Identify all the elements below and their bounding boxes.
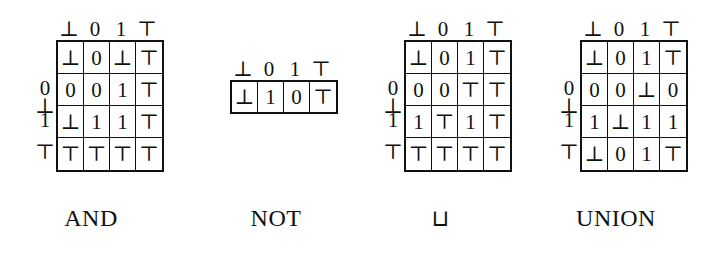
table-cell: 1 [458, 42, 484, 74]
operator-block-union: ⊥ 0 1 ⊤ ⊥ ⊥ 0 1 ⊤ 0 [536, 0, 696, 253]
table-cell: ⊥ [582, 42, 608, 74]
row-header-cell: ⊤ [34, 136, 56, 168]
table-cell: ⊤ [136, 138, 162, 170]
table-cell: 0 [582, 74, 608, 106]
row-header-cell: 1 [382, 104, 404, 136]
table-row: 0 0 ⊥ 0 [582, 74, 686, 106]
table-cell: ⊤ [136, 106, 162, 138]
operator-block-and: ⊥ 0 1 ⊤ ⊥ ⊥ 0 ⊥ ⊤ 0 [16, 0, 166, 253]
column-header-cell: 0 [430, 18, 456, 40]
column-header-cell: 0 [256, 58, 282, 80]
column-header-cell: 1 [456, 18, 482, 40]
column-header-cell: ⊥ [230, 58, 256, 80]
operator-block-join: ⊥ 0 1 ⊤ ⊥ ⊥ 0 1 ⊤ 0 [366, 0, 516, 253]
row-header-cell: 0 [558, 72, 580, 104]
row-header-cell: 0 [382, 72, 404, 104]
table-row: ⊤ ⊤ ⊤ ⊤ [58, 138, 162, 170]
row-header-cell: ⊤ [382, 136, 404, 168]
table-row: ⊥ 0 1 ⊤ [406, 42, 510, 74]
table-cell: 1 [110, 106, 136, 138]
operator-block-not: ⊥ 0 1 ⊤ ⊥ 1 0 ⊤ NOT [196, 0, 356, 253]
table-row: ⊤ ⊤ ⊤ ⊤ [406, 138, 510, 170]
row-header-column-and: 0 1 ⊤ [34, 40, 56, 168]
table-cell: 0 [608, 42, 634, 74]
row-header-cell: 1 [34, 104, 56, 136]
table-cell: ⊤ [484, 106, 510, 138]
column-header-cell: ⊤ [308, 58, 334, 80]
table-cell: ⊤ [406, 138, 432, 170]
column-header-cell: ⊤ [482, 18, 508, 40]
table-cell: 1 [258, 82, 284, 112]
column-header-cell: 1 [632, 18, 658, 40]
truth-table-grid-and: ⊥ 0 ⊥ ⊤ 0 0 1 ⊤ ⊥ 1 [56, 40, 164, 172]
table-row: 1 ⊥ 1 1 [582, 106, 686, 138]
truth-table-figure: ⊥ 0 1 ⊤ ⊥ ⊥ 0 ⊥ ⊤ 0 [0, 0, 714, 253]
truth-table-grid-union: ⊥ 0 1 ⊤ 0 0 ⊥ 0 1 ⊥ [580, 40, 688, 172]
table-cell: 0 [284, 82, 310, 112]
table-cell: 0 [432, 74, 458, 106]
table-row: ⊥ 0 1 ⊤ [582, 138, 686, 170]
row-header-cell: 0 [34, 72, 56, 104]
table-cell: ⊥ [406, 42, 432, 74]
column-header-row-and: ⊥ 0 1 ⊤ [56, 14, 164, 40]
column-header-cell: ⊥ [404, 18, 430, 40]
truth-table-grid-not: ⊥ 1 0 ⊤ [230, 80, 338, 114]
table-cell: 1 [458, 106, 484, 138]
column-header-row-join: ⊥ 0 1 ⊤ [404, 14, 512, 40]
table-cell: 0 [608, 138, 634, 170]
table-cell: ⊤ [84, 138, 110, 170]
table-cell: 0 [406, 74, 432, 106]
table-cell: 1 [634, 138, 660, 170]
table-cell: ⊤ [484, 138, 510, 170]
column-header-row-not: ⊥ 0 1 ⊤ [230, 54, 338, 80]
table-cell: ⊥ [582, 138, 608, 170]
table-cell: 1 [406, 106, 432, 138]
truth-table-and: ⊥ 0 1 ⊤ ⊥ ⊥ 0 ⊥ ⊤ 0 [34, 14, 164, 172]
truth-table-not: ⊥ 0 1 ⊤ ⊥ 1 0 ⊤ [230, 54, 338, 114]
row-header-cell: 1 [558, 104, 580, 136]
table-cell: 1 [660, 106, 686, 138]
table-row: ⊥ 1 1 ⊤ [58, 106, 162, 138]
table-cell: ⊥ [110, 42, 136, 74]
table-cell: ⊤ [432, 138, 458, 170]
row-header-cell: ⊤ [558, 136, 580, 168]
table-cell: ⊥ [232, 82, 258, 112]
table-cell: 0 [58, 74, 84, 106]
table-cell: 0 [660, 74, 686, 106]
table-cell: 1 [582, 106, 608, 138]
table-cell: 1 [110, 74, 136, 106]
operator-caption-not: NOT [196, 204, 356, 232]
table-row: 1 ⊤ 1 ⊤ [406, 106, 510, 138]
table-cell: ⊥ [58, 42, 84, 74]
table-row: 0 0 1 ⊤ [58, 74, 162, 106]
table-cell: ⊤ [660, 138, 686, 170]
table-cell: ⊥ [634, 74, 660, 106]
table-cell: ⊤ [136, 42, 162, 74]
truth-table-grid-join: ⊥ 0 1 ⊤ 0 0 ⊤ ⊤ 1 ⊤ [404, 40, 512, 172]
row-header-column-union: 0 1 ⊤ [558, 40, 580, 168]
table-cell: ⊥ [608, 106, 634, 138]
column-header-cell: 0 [82, 18, 108, 40]
table-cell: 0 [84, 74, 110, 106]
column-header-cell: ⊥ [580, 18, 606, 40]
table-cell: 0 [84, 42, 110, 74]
table-cell: ⊤ [458, 74, 484, 106]
table-row: 0 0 ⊤ ⊤ [406, 74, 510, 106]
table-cell: ⊤ [484, 42, 510, 74]
table-cell: ⊤ [484, 74, 510, 106]
column-header-cell: ⊥ [56, 18, 82, 40]
column-header-cell: 1 [282, 58, 308, 80]
table-cell: 1 [634, 42, 660, 74]
table-cell: 0 [608, 74, 634, 106]
table-cell: ⊥ [58, 106, 84, 138]
truth-table-join: ⊥ 0 1 ⊤ ⊥ ⊥ 0 1 ⊤ 0 [382, 14, 512, 172]
table-row: ⊥ 0 ⊥ ⊤ [58, 42, 162, 74]
operator-caption-and: AND [16, 204, 166, 232]
table-cell: 1 [634, 106, 660, 138]
column-header-cell: ⊤ [658, 18, 684, 40]
table-cell: ⊤ [110, 138, 136, 170]
column-header-cell: ⊤ [134, 18, 160, 40]
operator-caption-join: ⊔ [366, 204, 516, 232]
table-cell: ⊤ [136, 74, 162, 106]
operator-caption-union: UNION [536, 204, 696, 232]
